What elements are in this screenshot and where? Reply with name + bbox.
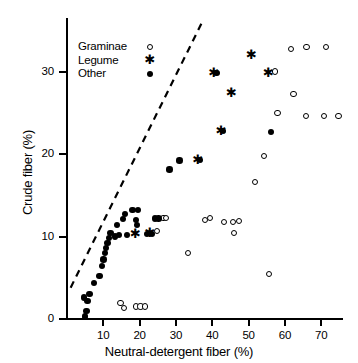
data-point-other — [155, 215, 161, 221]
data-point-legume: ✱ — [263, 69, 272, 78]
legend-label: Other — [78, 67, 143, 81]
data-point-legume: ✱ — [226, 89, 235, 98]
data-point-legume: ✱ — [130, 230, 139, 239]
data-point-graminae — [252, 179, 258, 185]
legend-row: Other — [78, 67, 157, 81]
data-point-other — [197, 157, 203, 163]
data-point-other — [100, 256, 106, 262]
data-point-graminae — [163, 215, 169, 221]
data-point-other — [176, 157, 182, 163]
data-point-other — [213, 70, 219, 76]
data-point-graminae — [142, 303, 148, 309]
asterisk-icon: ✱ — [145, 55, 156, 65]
legend-label: Graminae — [78, 40, 143, 54]
data-point-other — [91, 280, 97, 286]
data-point-other — [96, 273, 102, 279]
data-point-graminae — [290, 91, 296, 97]
scatter-plot: 0102030 10203040506070 Neutral-detergent… — [0, 0, 358, 363]
legend-label: Legume — [78, 54, 143, 68]
reference-dashed-line — [0, 0, 358, 363]
data-point-other — [166, 166, 172, 172]
filled-circle-icon — [147, 71, 153, 77]
legend-asterisk-icon: ✱ — [143, 54, 157, 68]
legend-row: Legume✱ — [78, 54, 157, 68]
data-point-other — [82, 313, 88, 319]
data-point-graminae — [321, 113, 327, 119]
data-point-legume: ✱ — [246, 51, 255, 60]
data-point-graminae — [335, 113, 341, 119]
data-point-other — [81, 294, 87, 300]
legend: GraminaeLegume✱Other — [78, 40, 157, 81]
data-point-other — [83, 308, 89, 314]
data-point-other — [134, 222, 140, 228]
data-point-graminae — [303, 44, 309, 50]
data-point-graminae — [274, 110, 280, 116]
legend-filled-circle-icon — [143, 67, 157, 81]
legend-table: GraminaeLegume✱Other — [78, 40, 157, 81]
data-point-graminae — [323, 44, 329, 50]
open-circle-icon — [147, 44, 153, 50]
data-point-graminae — [185, 250, 191, 256]
data-point-graminae — [303, 113, 309, 119]
data-point-graminae — [236, 218, 242, 224]
